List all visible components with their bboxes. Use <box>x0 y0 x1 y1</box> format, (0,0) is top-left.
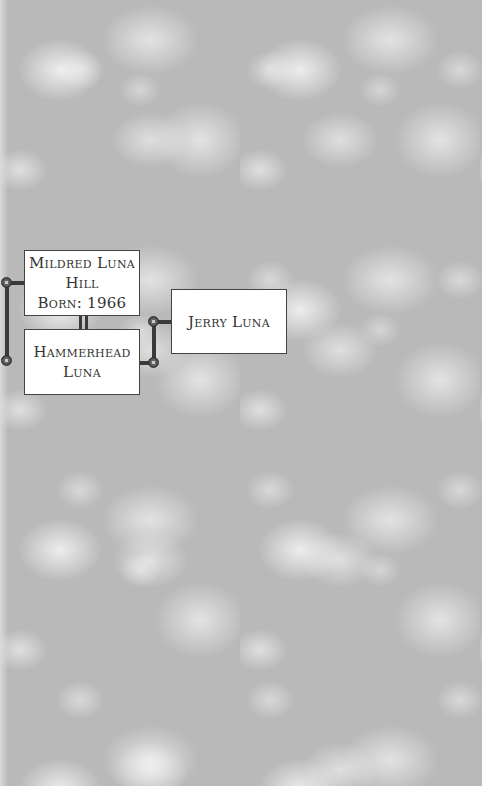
person-name-line2: Luna <box>63 362 101 382</box>
person-name-line1: Hammerhead <box>33 342 130 362</box>
person-card-hammerhead[interactable]: Hammerhead Luna <box>24 329 140 395</box>
person-born: Born: 1966 <box>38 293 127 313</box>
person-card-jerry[interactable]: Jerry Luna <box>171 289 287 354</box>
page-edge <box>0 0 8 786</box>
connector-node-child <box>148 357 159 368</box>
person-name-line1: Jerry Luna <box>188 312 270 332</box>
connector-node-mildred <box>1 277 12 288</box>
connector-left-vertical <box>5 283 9 365</box>
connector-node-jerry <box>148 316 159 327</box>
connector-node-hammerhead <box>1 355 12 366</box>
person-name-line1: Mildred Luna <box>29 253 135 273</box>
person-name-line2: Hill <box>65 273 98 293</box>
person-card-mildred[interactable]: Mildred Luna Hill Born: 1966 <box>24 250 140 316</box>
